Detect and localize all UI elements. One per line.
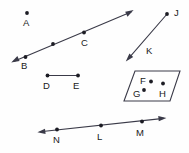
label-point-d: D [43,81,50,91]
point-m [140,120,144,124]
label-point-n: N [53,135,60,145]
line-bc-arrowhead-start [11,56,19,63]
point-e [76,74,80,78]
point-l [99,124,103,128]
point-h [161,82,165,86]
point-f [149,80,153,84]
label-point-a: A [23,18,30,28]
point-d [46,74,50,78]
line-bc-arrowhead-end [125,10,133,17]
geometry-diagram: A B C D E F G H J K L M N [0,0,189,153]
point-b [24,55,28,59]
line-nlm-arrowhead-start [37,129,45,134]
point-n [55,128,59,132]
label-segment-k: K [146,46,153,56]
point-ab-midpoint [51,42,55,46]
label-point-f: F [140,76,146,86]
line-bc-stroke [14,12,132,61]
label-point-j: J [174,8,179,18]
label-point-l: L [97,132,102,142]
label-point-g: G [133,89,141,99]
label-point-e: E [73,81,80,91]
label-point-b: B [21,61,28,71]
line-nlm-arrowhead-end [158,116,166,121]
point-g [142,88,146,92]
label-point-h: H [159,89,166,99]
label-point-m: M [136,128,144,138]
point-j [165,12,169,16]
point-a [25,11,29,15]
label-point-c: C [81,38,88,48]
point-c [82,31,86,35]
